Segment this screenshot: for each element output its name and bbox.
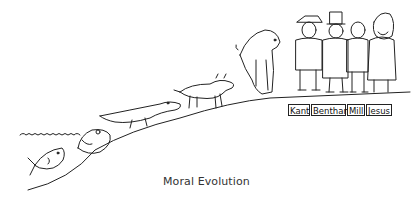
frog-figure <box>78 130 110 154</box>
jesus-figure <box>368 13 396 92</box>
water-waves <box>20 134 80 136</box>
nameplate-jesus: Jesus <box>366 104 392 116</box>
ape-figure <box>236 30 280 94</box>
nameplate-mill: Mill <box>347 104 365 116</box>
kant-figure <box>296 16 322 90</box>
nameplate-kant: Kant <box>288 104 310 116</box>
fish-figure <box>28 148 64 175</box>
bentham-figure <box>323 12 348 92</box>
mill-figure <box>347 22 368 92</box>
dog-figure <box>174 74 234 108</box>
crocodile-figure <box>100 102 180 128</box>
nameplate-bentham: Bentham <box>311 104 346 116</box>
caption: Moral Evolution <box>163 175 250 188</box>
